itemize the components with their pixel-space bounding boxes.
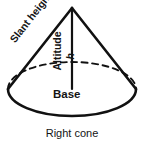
slant-height-right-edge bbox=[72, 8, 136, 89]
right-cone-figure: Slant height Altitude h Base Right cone bbox=[0, 0, 144, 147]
figure-caption: Right cone bbox=[0, 128, 144, 139]
height-symbol-label: h bbox=[65, 53, 76, 59]
base-label: Base bbox=[53, 89, 81, 101]
altitude-label: Altitude bbox=[52, 31, 63, 70]
